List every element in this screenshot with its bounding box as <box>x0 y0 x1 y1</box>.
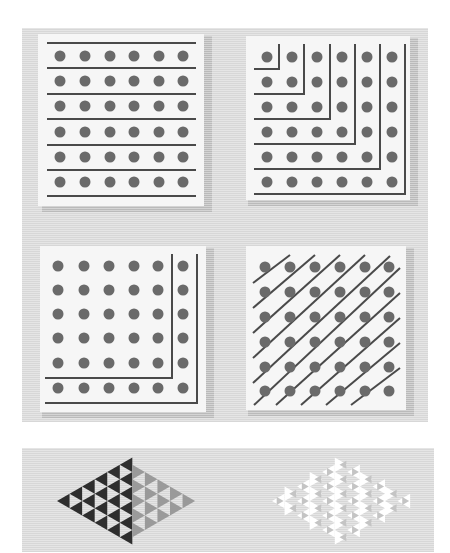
dot <box>178 383 189 394</box>
dot <box>262 102 273 113</box>
dot <box>55 76 66 87</box>
dot <box>287 102 298 113</box>
dot <box>335 287 346 298</box>
triangle <box>82 508 95 523</box>
dot <box>285 362 296 373</box>
triangle <box>120 530 133 545</box>
dot <box>287 77 298 88</box>
triangle <box>145 487 158 502</box>
dot <box>79 261 90 272</box>
dot <box>104 309 115 320</box>
dot <box>337 77 348 88</box>
dot <box>310 362 321 373</box>
dot <box>104 333 115 344</box>
dot <box>153 383 164 394</box>
dot <box>104 383 115 394</box>
triangle <box>95 516 108 531</box>
dot <box>384 337 395 348</box>
dot <box>285 312 296 323</box>
dot <box>285 262 296 273</box>
dot <box>154 127 165 138</box>
dot <box>362 177 373 188</box>
dot <box>262 77 273 88</box>
dot <box>335 312 346 323</box>
dot <box>153 285 164 296</box>
dot <box>362 52 373 63</box>
dot <box>154 152 165 163</box>
triangle <box>120 501 133 516</box>
dot <box>154 51 165 62</box>
rows-lines <box>47 43 196 196</box>
gnomon-lines <box>254 44 405 194</box>
dot <box>104 358 115 369</box>
dot <box>285 287 296 298</box>
dot <box>178 333 189 344</box>
dot <box>129 309 140 320</box>
dot <box>310 262 321 273</box>
triangle-pattern-right <box>272 458 410 545</box>
dot <box>335 362 346 373</box>
dot <box>262 52 273 63</box>
triangle-pattern-left <box>57 458 195 545</box>
dot <box>55 177 66 188</box>
dot <box>105 76 116 87</box>
dot <box>154 177 165 188</box>
dot <box>79 383 90 394</box>
dot <box>55 51 66 62</box>
dot <box>337 152 348 163</box>
dot <box>360 362 371 373</box>
dot <box>260 312 271 323</box>
dot <box>337 52 348 63</box>
dot <box>53 358 64 369</box>
dot <box>129 285 140 296</box>
dot <box>178 285 189 296</box>
triangle <box>70 487 83 502</box>
dot <box>129 177 140 188</box>
dot <box>310 337 321 348</box>
dot <box>153 309 164 320</box>
dot <box>105 101 116 112</box>
dot <box>312 77 323 88</box>
dot <box>362 127 373 138</box>
dot <box>104 261 115 272</box>
dot <box>260 287 271 298</box>
triangle <box>145 501 158 516</box>
dot <box>384 362 395 373</box>
dot <box>384 312 395 323</box>
triangle <box>132 465 145 480</box>
triangle <box>183 494 196 509</box>
dot <box>384 287 395 298</box>
dot <box>178 127 189 138</box>
dot <box>53 309 64 320</box>
dot <box>262 152 273 163</box>
dot <box>384 386 395 397</box>
dot <box>337 102 348 113</box>
dot <box>178 177 189 188</box>
triangle <box>120 487 133 502</box>
dot <box>178 261 189 272</box>
dot <box>362 102 373 113</box>
dot <box>53 285 64 296</box>
triangle <box>107 465 120 480</box>
triangle <box>170 501 183 516</box>
dot <box>79 358 90 369</box>
triangle <box>145 516 158 531</box>
dot <box>153 358 164 369</box>
dot <box>80 152 91 163</box>
dot <box>362 152 373 163</box>
dot <box>129 261 140 272</box>
dot <box>337 177 348 188</box>
dot <box>387 102 398 113</box>
dot <box>129 383 140 394</box>
triangle <box>120 458 133 473</box>
dot <box>53 333 64 344</box>
dot <box>55 101 66 112</box>
triangle <box>170 487 183 502</box>
dot <box>387 52 398 63</box>
triangle <box>132 479 145 494</box>
corner-lines <box>45 254 197 403</box>
triangle <box>57 494 70 509</box>
dot <box>335 337 346 348</box>
dot <box>387 177 398 188</box>
dot <box>154 76 165 87</box>
